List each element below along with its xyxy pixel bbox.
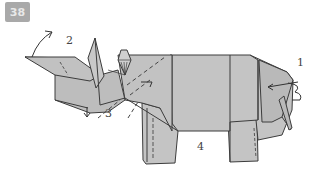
step-label-3: 3 bbox=[105, 107, 112, 120]
body-back bbox=[170, 55, 258, 131]
step-label-4: 4 bbox=[197, 140, 204, 153]
fold-guide-3d bbox=[128, 102, 138, 118]
step-label-1: 1 bbox=[297, 56, 304, 69]
arrow-step-2-icon bbox=[32, 32, 52, 57]
rhino-drawing bbox=[0, 0, 321, 174]
rear-leg bbox=[228, 118, 258, 162]
origami-diagram: 38 bbox=[0, 0, 321, 174]
step-label-2: 2 bbox=[66, 34, 73, 47]
